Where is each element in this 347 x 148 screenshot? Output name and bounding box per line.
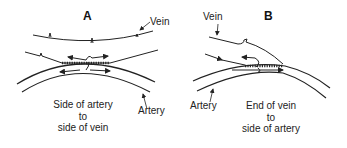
caption-line: side of vein [38, 122, 128, 134]
vein-wall-lower [205, 54, 222, 60]
panel-b-artery-label: Artery [190, 100, 217, 111]
caption-line: to [38, 111, 128, 123]
vein-wall-lower [25, 50, 158, 63]
artery-wall-upper [193, 65, 330, 88]
panel-b-letter: B [264, 9, 273, 23]
caption-line: End of vein [226, 100, 316, 112]
caption-line: side of artery [226, 123, 316, 135]
panel-a-letter: A [83, 9, 92, 23]
panel-a-caption: Side of artery to side of vein [38, 99, 128, 134]
panel-b-caption: End of vein to side of artery [226, 100, 316, 135]
panel-b-vein-label: Vein [203, 11, 222, 22]
panel-a-vein-label: Vein [150, 16, 169, 27]
artery-wall-lower [197, 72, 326, 98]
panel-b-drawing [193, 24, 330, 102]
vein-wall-upper [209, 37, 283, 64]
panel-a-artery-label: Artery [138, 105, 165, 116]
caption-line: to [226, 112, 316, 124]
caption-line: Side of artery [38, 99, 128, 111]
artery-wall-lower [22, 74, 150, 93]
panel-a-drawing [17, 22, 158, 109]
